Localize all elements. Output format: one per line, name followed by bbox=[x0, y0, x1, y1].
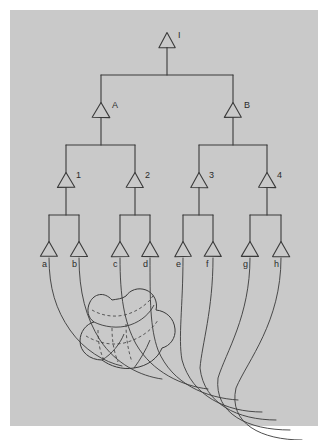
leaf-label-h: h bbox=[274, 260, 279, 269]
triangle-node-g[interactable] bbox=[241, 242, 258, 257]
triangle-node-a[interactable] bbox=[40, 242, 57, 257]
leaf-label-g: g bbox=[243, 260, 248, 269]
triangle-node-h[interactable] bbox=[273, 242, 290, 257]
node-label-B: B bbox=[244, 101, 250, 110]
triangle-node-1[interactable] bbox=[57, 173, 74, 188]
flow-curve-group bbox=[49, 258, 302, 440]
blob-dashed-edge-5 bbox=[126, 324, 132, 362]
triangle-node-d[interactable] bbox=[142, 242, 159, 257]
leaf-label-a: a bbox=[42, 260, 47, 269]
triangle-node-2[interactable] bbox=[126, 173, 143, 188]
leaf-label-f: f bbox=[206, 260, 209, 269]
leaf-label-d: d bbox=[143, 260, 148, 269]
triangle-node-B[interactable] bbox=[224, 103, 241, 118]
triangle-node-e[interactable] bbox=[175, 242, 192, 257]
flow-curve-a bbox=[49, 258, 122, 366]
triangle-node-b[interactable] bbox=[70, 242, 87, 257]
node-label-A: A bbox=[112, 101, 118, 110]
node-label-I: I bbox=[178, 31, 181, 40]
node-label-2: 2 bbox=[145, 171, 150, 180]
triangle-node-c[interactable] bbox=[111, 242, 129, 257]
node-label-4: 4 bbox=[277, 171, 282, 180]
triangle-node-I[interactable] bbox=[159, 33, 175, 48]
diagram-canvas bbox=[0, 0, 334, 440]
flow-curve-h bbox=[235, 258, 302, 440]
triangle-node-A[interactable] bbox=[92, 103, 110, 118]
flow-curve-f bbox=[200, 258, 276, 420]
node-label-1: 1 bbox=[76, 171, 81, 180]
leaf-label-b: b bbox=[72, 260, 77, 269]
node-label-3: 3 bbox=[209, 171, 214, 180]
tree-edge-group bbox=[49, 48, 281, 242]
leaf-label-c: c bbox=[113, 260, 118, 269]
leaf-label-e: e bbox=[176, 260, 181, 269]
triangle-node-3[interactable] bbox=[191, 173, 208, 188]
flow-curve-d bbox=[150, 258, 238, 400]
triangle-node-f[interactable] bbox=[204, 242, 221, 257]
flow-curve-e bbox=[180, 258, 262, 412]
triangle-node-4[interactable] bbox=[259, 173, 276, 188]
